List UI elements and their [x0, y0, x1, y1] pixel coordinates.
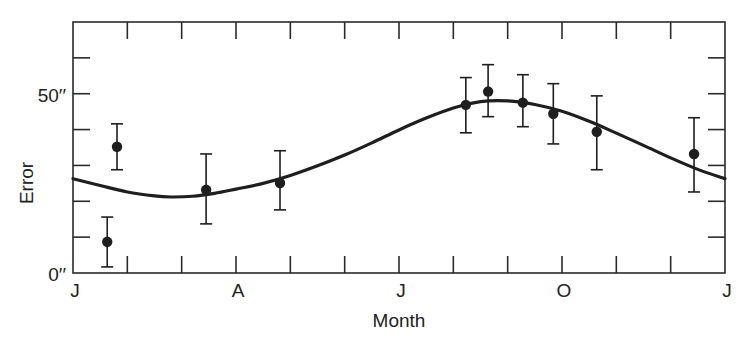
- point-marker: [518, 97, 528, 107]
- x-tick-label: A: [232, 281, 245, 300]
- point-marker: [689, 149, 699, 159]
- y-tick-label: 0′′: [0, 265, 66, 284]
- y-tick-label: 50′′: [0, 85, 66, 104]
- fit-line: [73, 101, 725, 197]
- point-marker: [461, 100, 471, 110]
- data-point: [482, 65, 494, 117]
- data-point: [200, 154, 212, 224]
- axis-ticks: [73, 22, 725, 273]
- data-point: [591, 96, 603, 170]
- point-marker: [112, 142, 122, 152]
- y-axis-label: Error: [16, 162, 38, 204]
- x-axis-label: Month: [373, 310, 426, 332]
- data-points: [101, 65, 700, 267]
- data-point: [460, 78, 472, 133]
- point-marker: [201, 185, 211, 195]
- x-tick-label: J: [722, 281, 732, 300]
- point-marker: [102, 237, 112, 247]
- x-tick-label: J: [396, 281, 406, 300]
- x-tick-label: O: [557, 281, 572, 300]
- data-point: [517, 75, 529, 127]
- plot-frame: [73, 22, 725, 273]
- chart-plot: [0, 0, 746, 339]
- data-point: [688, 118, 700, 192]
- point-marker: [275, 178, 285, 188]
- data-point: [547, 84, 559, 144]
- data-point: [274, 151, 286, 210]
- fitted-curve: [73, 101, 725, 197]
- point-marker: [592, 127, 602, 137]
- plot-border: [73, 22, 725, 273]
- point-marker: [483, 86, 493, 96]
- data-point: [101, 217, 113, 267]
- data-point: [111, 124, 123, 170]
- x-tick-label: J: [70, 281, 80, 300]
- point-marker: [548, 109, 558, 119]
